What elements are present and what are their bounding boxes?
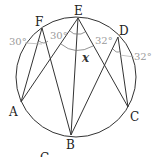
angle-label-D: 32° — [134, 51, 152, 62]
angle-arc-E-right — [77, 32, 85, 34]
segment-EB — [71, 18, 78, 135]
point-label-E: E — [74, 4, 83, 18]
point-label-A: A — [8, 105, 18, 119]
point-label-C: C — [130, 110, 139, 124]
segment-FB — [42, 28, 71, 135]
angle-label-F: 30° — [9, 36, 27, 47]
segment-DC — [118, 37, 128, 107]
point-label-F: F — [35, 15, 43, 29]
point-label-B: B — [66, 138, 75, 152]
angle-arc-F — [39, 41, 48, 43]
angle-arc-D — [113, 49, 120, 52]
circle — [16, 17, 136, 137]
angle-arc-x — [61, 44, 93, 51]
angle-label-x: x — [81, 51, 90, 65]
angle-label-E-right: 32° — [95, 35, 113, 46]
point-label-D: D — [119, 24, 129, 38]
angle-label-E-left: 30° — [50, 30, 68, 41]
angle-arc-E-left — [70, 31, 77, 34]
leader-F — [25, 43, 42, 44]
caption-partial: C — [40, 151, 49, 157]
geometry-figure: 30° 30° 32° 32° x E F D A C B C — [0, 0, 152, 157]
segment-DB — [71, 37, 118, 135]
